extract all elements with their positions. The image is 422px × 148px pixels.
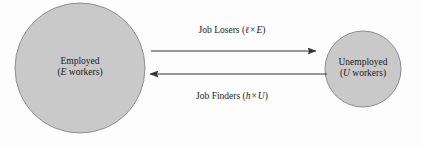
unemployed-circle (325, 31, 401, 107)
diagram-canvas: Employed (E workers) Unemployed (U worke… (0, 0, 422, 148)
flow-diagram-svg (0, 0, 422, 148)
employed-circle (15, 3, 145, 133)
